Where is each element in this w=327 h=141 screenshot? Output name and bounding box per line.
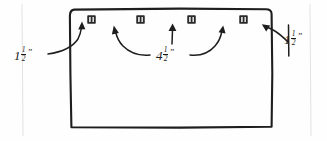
measurement-left-unit: ” (27, 47, 32, 57)
measurement-middle-fraction: 12 (163, 46, 168, 62)
measurement-middle-unit: ” (169, 47, 174, 57)
page-edge-artifact-left (22, 4, 23, 136)
measurement-label-left: 112” (14, 46, 33, 62)
measurement-label-middle: 412” (156, 46, 175, 62)
measurement-left-fraction: 12 (21, 46, 26, 62)
measurement-middle-whole: 4 (156, 48, 163, 63)
leader-arrow-middle-left (112, 26, 150, 56)
bracket-1 (88, 16, 96, 24)
sketch-canvas: 112” 412” 112” (0, 0, 327, 141)
measurement-right-fraction: 12 (291, 30, 296, 46)
measurement-right-denominator: 2 (291, 39, 296, 47)
bracket-3 (188, 16, 196, 24)
bracket-4 (240, 16, 248, 24)
leader-arrow-left (48, 22, 85, 55)
leader-arrow-middle-right (190, 26, 226, 56)
measurement-right-whole: 1 (284, 32, 291, 47)
measurement-label-right: 112” (284, 30, 303, 46)
measurement-right-unit: ” (297, 31, 302, 41)
leader-arrow-middle-up (169, 24, 177, 45)
measurement-left-denominator: 2 (21, 55, 26, 63)
page-edge-artifact-right (310, 4, 311, 136)
measurement-middle-denominator: 2 (163, 55, 168, 63)
bracket-2 (137, 16, 145, 24)
measurement-left-whole: 1 (14, 48, 21, 63)
diagram-svg (0, 0, 327, 141)
